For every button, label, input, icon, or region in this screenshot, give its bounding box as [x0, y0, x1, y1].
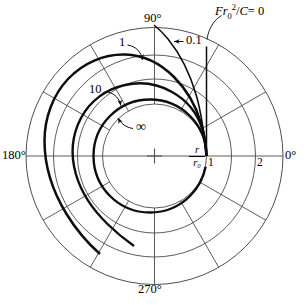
spoke-300deg	[181, 201, 219, 267]
curve-path-10	[73, 83, 207, 246]
curve-label-0p1: 0.1	[186, 34, 202, 47]
radial-tick-2: 2	[257, 157, 263, 169]
curve-label-infinity: ∞	[136, 120, 146, 134]
center-cross-marker	[147, 149, 162, 164]
angle-label-270: 270°	[138, 283, 162, 296]
arrow-path-infinity	[118, 118, 133, 129]
spoke-330deg	[200, 182, 266, 220]
polar-chart-figure: Fr02/C= 0 90° 180° 0° 270° r r₀ 1 2 0.1 …	[0, 0, 307, 305]
radial-tick-1: 1	[208, 157, 214, 169]
spoke-30deg	[200, 92, 266, 130]
curve-10	[73, 83, 207, 246]
radial-axis-numerator: r	[189, 145, 205, 156]
curve-label-1: 1	[119, 36, 125, 49]
curve-label-10: 10	[89, 83, 102, 96]
polar-chart-canvas	[0, 0, 307, 305]
radial-axis-denominator: r₀	[189, 158, 205, 169]
angle-label-90: 90°	[144, 12, 162, 25]
arrow-infinity	[118, 118, 133, 129]
title-C: C	[240, 4, 248, 18]
chart-title-label: Fr02/C= 0	[215, 3, 264, 20]
angle-label-180: 180°	[2, 149, 26, 162]
radial-axis-label: r r₀	[189, 145, 205, 168]
title-F: F	[215, 4, 223, 18]
title-eq0: = 0	[248, 4, 264, 18]
angle-label-0: 0°	[285, 149, 296, 162]
title-sub0: 0	[228, 11, 232, 21]
